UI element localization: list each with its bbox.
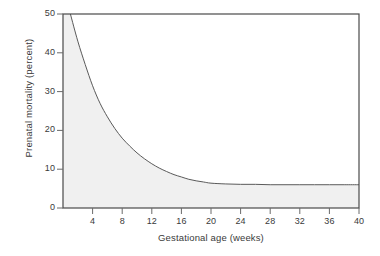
area-fill xyxy=(63,14,359,208)
y-tick-label: 10 xyxy=(33,163,55,173)
y-tick-label: 20 xyxy=(33,124,55,134)
x-tick-label: 12 xyxy=(140,216,164,226)
y-axis-ticks xyxy=(57,14,63,208)
y-tick-label: 50 xyxy=(33,8,55,18)
y-tick-label: 30 xyxy=(33,86,55,96)
y-tick-label: 40 xyxy=(33,47,55,57)
y-tick-label: 0 xyxy=(33,202,55,212)
x-tick-label: 32 xyxy=(288,216,312,226)
x-tick-label: 16 xyxy=(169,216,193,226)
chart-figure: Prenatal mortality (percent) Gestational… xyxy=(0,0,380,256)
x-tick-label: 24 xyxy=(229,216,253,226)
x-axis-ticks xyxy=(93,208,359,214)
x-tick-label: 36 xyxy=(317,216,341,226)
x-tick-label: 4 xyxy=(81,216,105,226)
x-tick-label: 8 xyxy=(110,216,134,226)
x-tick-label: 28 xyxy=(258,216,282,226)
x-tick-label: 20 xyxy=(199,216,223,226)
x-tick-label: 40 xyxy=(347,216,371,226)
